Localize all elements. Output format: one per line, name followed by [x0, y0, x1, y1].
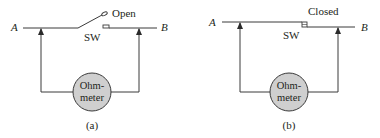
- switch-blade-tip-icon: [101, 11, 108, 17]
- ohmmeter-label-line1: Ohm-: [277, 80, 302, 91]
- switch-state-label: Open: [112, 7, 136, 19]
- switch-contact-icon: [103, 25, 109, 28]
- switch-state-label: Closed: [308, 5, 339, 17]
- ohmmeter-label-line1: Ohm-: [80, 80, 105, 91]
- switch-blade-open: [78, 15, 102, 28]
- switch-label: SW: [84, 31, 101, 43]
- caption-b: (b): [283, 119, 296, 132]
- panel-b-closed-switch: A Closed SW B Ohm- meter (b): [208, 5, 368, 132]
- ohmmeter-label-line2: meter: [277, 92, 301, 103]
- node-a-label: A: [10, 21, 18, 33]
- caption-a: (a): [86, 119, 99, 132]
- panel-a-open-switch: A Open SW B Ohm- meter (a): [10, 7, 168, 132]
- node-b-label: B: [361, 21, 368, 33]
- ohmmeter-switch-diagram: A Open SW B Ohm- meter (a) A Closed SW: [0, 0, 380, 138]
- node-a-label: A: [208, 16, 216, 28]
- node-b-label: B: [161, 21, 168, 33]
- ohmmeter-label-line2: meter: [80, 92, 104, 103]
- switch-label: SW: [283, 29, 300, 41]
